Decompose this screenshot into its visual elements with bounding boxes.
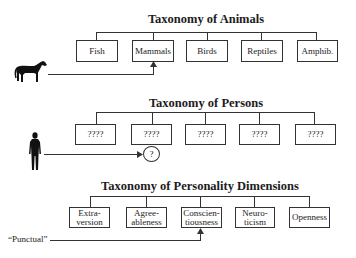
punctual-label: “Punctual”	[8, 234, 48, 244]
connector	[261, 32, 262, 40]
dimension-neuroticism: Neuro- ticism	[235, 207, 275, 228]
dimension-conscientiousness: Conscien- tiousness	[181, 207, 222, 228]
unknown-category-2: ????	[131, 124, 172, 145]
person-silhouette-icon	[27, 132, 43, 172]
dimension-extraversion: Extra- version	[69, 207, 110, 228]
connector	[205, 112, 206, 124]
connector	[309, 196, 310, 207]
personality-title: Taxonomy of Personality Dimensions	[101, 179, 299, 194]
animals-title: Taxonomy of Animals	[148, 12, 264, 27]
arrow-up-icon	[197, 228, 204, 234]
unknown-category-5: ????	[295, 124, 336, 145]
person-arrow-line	[44, 154, 140, 155]
category-amphibians: Amphib.	[297, 40, 338, 62]
unknown-category-4: ????	[239, 124, 280, 145]
connector	[254, 196, 255, 207]
category-birds: Birds	[186, 40, 228, 62]
horse-icon	[14, 60, 48, 84]
connector	[152, 112, 153, 124]
horse-arrow-line	[48, 74, 153, 75]
connector	[96, 112, 97, 124]
connector	[207, 32, 208, 40]
arrow-up-icon	[150, 61, 157, 67]
connector	[200, 196, 201, 207]
connector	[314, 112, 315, 124]
dimension-openness: Openness	[289, 207, 330, 228]
dimension-agreeableness: Agree- ableness	[126, 207, 167, 228]
category-mammals: Mammals	[132, 40, 174, 62]
category-fish: Fish	[76, 40, 118, 62]
persons-title: Taxonomy of Persons	[149, 96, 263, 111]
connector	[153, 32, 154, 40]
connector	[90, 196, 91, 207]
connector	[96, 32, 97, 40]
category-reptiles: Reptiles	[241, 40, 283, 62]
connector	[259, 112, 260, 124]
animals-bracket	[96, 32, 316, 33]
unknown-category-3: ????	[185, 124, 226, 145]
unknown-category-1: ????	[75, 124, 116, 145]
punctual-arrow-line	[50, 240, 201, 241]
connector	[316, 32, 317, 40]
connector	[146, 196, 147, 207]
unknown-category-marker: ?	[143, 146, 160, 162]
